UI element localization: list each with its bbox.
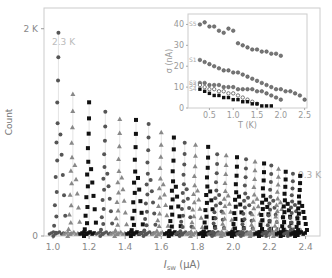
inset-y-tick: 40 — [174, 20, 184, 29]
x-tick-label: 2.0 — [226, 242, 241, 252]
histogram-series — [48, 31, 68, 238]
inset-x-label: T (K) — [237, 121, 257, 130]
histogram-series — [95, 110, 115, 238]
x-tick-label: 1.0 — [46, 242, 61, 252]
inset-series-label: S1 — [189, 56, 197, 63]
histogram-series — [150, 130, 171, 238]
x-tick-label: 2.2 — [262, 242, 276, 252]
x-tick-label: 1.2 — [82, 242, 96, 252]
histogram-series — [125, 118, 145, 238]
inset-x-tick: 1.5 — [251, 111, 264, 120]
inset-y-label: σ (nA) — [165, 49, 174, 73]
figure: 1.01.21.41.61.82.02.22.402 KIsw (μA)Coun… — [0, 0, 332, 278]
histogram-series — [108, 116, 129, 238]
y-axis-label: Count — [4, 108, 14, 135]
x-tick-label: 2.4 — [298, 242, 313, 252]
annotation-high-temp: 2.3 K — [52, 37, 76, 47]
x-tick-label: 1.8 — [190, 242, 205, 252]
inset-series-label: S5 — [189, 20, 197, 27]
inset-y-tick: 30 — [174, 41, 184, 50]
histogram-series — [138, 122, 158, 238]
inset-x-tick: 2.0 — [274, 111, 287, 120]
inset-x-tick: 1.0 — [227, 111, 240, 120]
x-tick-label: 1.4 — [118, 242, 133, 252]
y-tick-label: 2 K — [24, 24, 40, 34]
x-axis-label: Isw (μA) — [164, 259, 201, 272]
inset-x-tick: 2.5 — [298, 111, 311, 120]
inset-y-tick: 0 — [179, 104, 184, 113]
chart-canvas: 1.01.21.41.61.82.02.22.402 KIsw (μA)Coun… — [0, 0, 332, 278]
histogram-series — [78, 100, 98, 238]
inset-series-label: S4 — [189, 85, 197, 92]
inset-y-tick: 20 — [174, 62, 184, 71]
inset-y-tick: 10 — [174, 83, 184, 92]
y-tick-label: 0 — [32, 231, 38, 241]
inset-x-tick: 0.5 — [203, 111, 216, 120]
x-tick-label: 1.6 — [154, 242, 169, 252]
